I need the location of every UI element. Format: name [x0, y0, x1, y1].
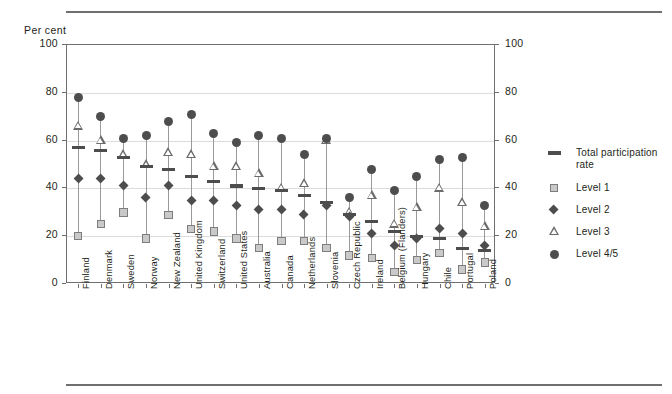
data-point-circle [390, 186, 399, 195]
y-axis-tick-label-right-40: 40 [505, 180, 545, 192]
x-axis-category-label-chile: Chile [443, 267, 453, 289]
connector-line [484, 205, 485, 262]
x-axis-category-label-united-kingdom: United Kingdom [194, 220, 204, 289]
data-point-diamond [209, 195, 219, 205]
y-axis-tick-mark [62, 44, 66, 45]
data-point-diamond [299, 210, 309, 220]
y-axis-tick-label-left-60: 60 [14, 133, 58, 145]
data-point-dash [252, 187, 265, 190]
legend-item-label: Level 2 [576, 204, 610, 216]
connector-line [304, 155, 305, 241]
data-point-triangle [254, 168, 264, 177]
data-point-circle [232, 138, 241, 147]
data-point-dash [478, 249, 491, 252]
data-point-triangle [457, 197, 467, 206]
data-point-square [74, 232, 82, 240]
data-point-dash [365, 220, 378, 223]
data-point-diamond [73, 174, 83, 184]
y-axis-tick-label-left-100: 100 [14, 37, 58, 49]
y-axis-tick-mark [495, 187, 499, 188]
x-axis-category-label-canada: Canada [285, 255, 295, 289]
x-axis-tick-mark [169, 284, 170, 288]
x-axis-category-label-hungary: Hungary [420, 252, 430, 289]
data-point-triangle [434, 183, 444, 192]
legend-item-label: Total participation rate [576, 147, 670, 172]
x-axis-tick-mark [214, 284, 215, 288]
data-point-triangle [412, 202, 422, 211]
connector-line [236, 143, 237, 239]
legend-circle-icon [554, 254, 559, 259]
data-point-triangle [299, 178, 309, 187]
data-point-dash [72, 146, 85, 149]
data-point-circle [322, 134, 331, 143]
y-axis-tick-mark [495, 140, 499, 141]
data-point-triangle [367, 190, 377, 199]
x-axis-tick-mark [485, 284, 486, 288]
data-point-diamond [254, 205, 264, 215]
data-point-circle [412, 172, 421, 181]
x-axis-category-label-switzerland: Switzerland [217, 239, 227, 289]
y-axis-tick-mark [62, 187, 66, 188]
legend-item: Total participation rate [552, 148, 670, 174]
data-point-circle [480, 201, 489, 210]
connector-line [191, 114, 192, 229]
data-point-square [164, 211, 172, 219]
data-point-triangle [231, 161, 241, 170]
data-point-diamond [276, 205, 286, 215]
data-point-triangle [480, 221, 490, 230]
legend-item-label: Level 4/5 [576, 248, 618, 260]
data-point-square [97, 220, 105, 228]
x-axis-tick-mark [440, 284, 441, 288]
y-axis-tick-label-right-0: 0 [505, 276, 545, 288]
y-axis-tick-mark [495, 235, 499, 236]
data-point-circle [367, 165, 376, 174]
legend-item: Level 3 [552, 227, 670, 240]
data-point-diamond [118, 181, 128, 191]
data-point-triangle [163, 147, 173, 156]
data-point-dash [275, 189, 288, 192]
x-axis-tick-mark [372, 284, 373, 288]
data-point-diamond [164, 181, 174, 191]
x-axis-tick-mark [101, 284, 102, 288]
x-axis-tick-mark [236, 284, 237, 288]
legend-diamond-icon [554, 210, 558, 214]
x-axis-tick-mark [123, 284, 124, 288]
data-point-triangle [186, 149, 196, 158]
y-axis-tick-label-right-20: 20 [505, 228, 545, 240]
x-axis-category-label-poland: Poland [488, 259, 498, 289]
x-axis-category-label-slovenia: Slovenia [330, 252, 340, 289]
chart-legend: Total participation rateLevel 1Level 2Le… [552, 148, 670, 271]
y-axis-tick-mark [62, 235, 66, 236]
y-axis-tick-mark [62, 92, 66, 93]
chart-figure: Per cent Total participation rateLevel 1… [0, 0, 672, 394]
x-axis-tick-mark [146, 284, 147, 288]
data-point-dash [456, 247, 469, 250]
x-axis-category-label-denmark: Denmark [104, 250, 114, 289]
connector-line [258, 136, 259, 248]
x-axis-tick-mark [191, 284, 192, 288]
y-axis-tick-label-left-80: 80 [14, 85, 58, 97]
data-point-dash [207, 180, 220, 183]
data-point-diamond [231, 200, 241, 210]
x-axis-category-label-ireland: Ireland [375, 259, 385, 289]
y-axis-tick-mark [62, 140, 66, 141]
y-axis-tick-label-right-80: 80 [505, 85, 545, 97]
data-point-dash [117, 156, 130, 159]
data-point-dash [230, 184, 243, 187]
data-point-circle [277, 134, 286, 143]
data-point-dash [162, 168, 175, 171]
data-point-triangle [209, 161, 219, 170]
data-point-circle [142, 131, 151, 140]
data-point-diamond [367, 229, 377, 239]
data-point-dash [298, 194, 311, 197]
x-axis-tick-mark [78, 284, 79, 288]
x-axis-category-label-united-states: United States [239, 231, 249, 289]
x-axis-category-label-australia: Australia [262, 251, 272, 289]
x-axis-category-label-belgium-flanders: Belgium (Flanders) [397, 207, 407, 289]
data-point-circle [300, 150, 309, 159]
x-axis-tick-mark [349, 284, 350, 288]
data-point-dash [433, 237, 446, 240]
data-point-diamond [96, 174, 106, 184]
top-divider-rule [66, 11, 662, 13]
x-axis-tick-mark [394, 284, 395, 288]
